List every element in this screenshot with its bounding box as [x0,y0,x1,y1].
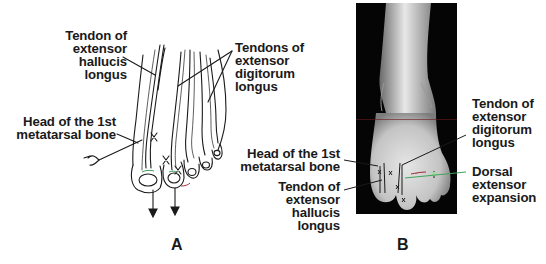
label-b-tendon-ehl: Tendon of extensor hallucis longus [270,180,340,232]
label-b-tendon-edl: Tendon of extensor digitorum longus [472,97,534,149]
label-b-dorsal-expansion: Dorsal extensor expansion [472,165,536,204]
label-b-head-metatarsal: Head of the 1st metatarsal bone [232,147,340,173]
panel-b-letter: B [397,236,409,254]
